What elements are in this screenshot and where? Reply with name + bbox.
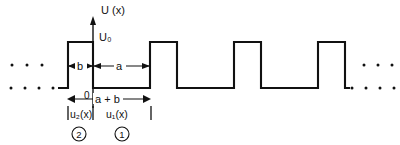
barrier-width-label: b [77, 60, 83, 72]
region1-marker-text: 1 [119, 129, 124, 140]
wavefunction-label-region1: u₁(x) [106, 108, 128, 120]
period-label: a + b [95, 93, 120, 105]
kronig-penney-potential-figure: U (x) U₀ 0 b a a + b [0, 0, 400, 145]
barrier-width-dimension: b [68, 60, 93, 72]
potential-diagram-svg: U (x) U₀ 0 b a a + b [0, 0, 400, 145]
wavefunction-label-region2: u₂(x) [70, 108, 92, 120]
periodic-potential-curve [58, 42, 350, 88]
wavefunction-region2-label: u₂(x) [70, 108, 92, 120]
well-width-label: a [116, 60, 123, 72]
region2-circle-marker: 2 [72, 127, 86, 141]
left-lower-ellipsis-icon [10, 87, 55, 90]
left-upper-ellipsis-icon [11, 64, 44, 67]
region1-circle-marker: 1 [115, 127, 129, 141]
right-lower-ellipsis-icon [351, 87, 396, 90]
axis-title-label: U (x) [101, 4, 125, 16]
well-width-dimension: a [93, 60, 150, 72]
amplitude-label: U₀ [99, 31, 112, 43]
period-dimension: a + b [67, 93, 151, 105]
wavefunction-region1-label: u₁(x) [106, 108, 128, 120]
region2-marker-text: 2 [76, 129, 81, 140]
right-upper-ellipsis-icon [363, 64, 394, 67]
